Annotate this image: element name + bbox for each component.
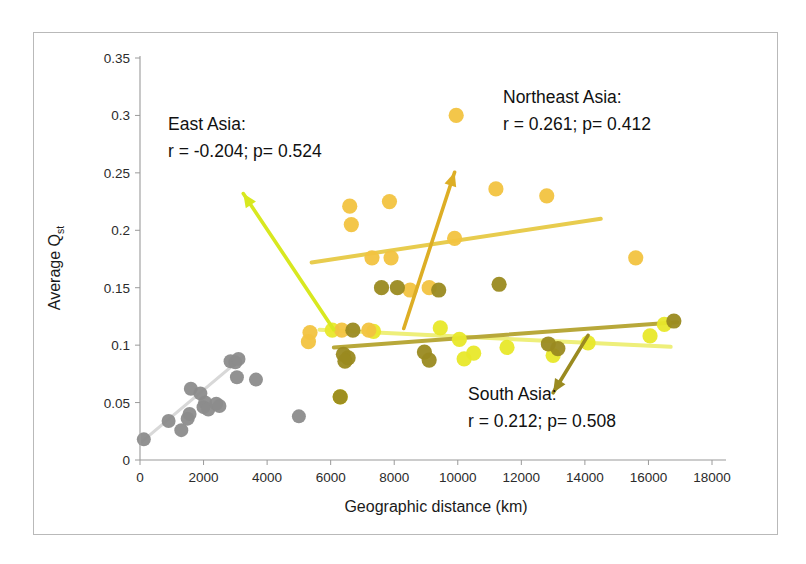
- data-point: [212, 399, 226, 413]
- x-tick-label: 14000: [566, 470, 604, 485]
- data-point: [137, 432, 151, 446]
- x-tick-label: 8000: [379, 470, 409, 485]
- x-tick-label: 0: [136, 470, 144, 485]
- y-axis-title-text: Average Q: [46, 234, 63, 310]
- y-tick-label: 0.05: [104, 396, 130, 411]
- annotation-northeast-asia: Northeast Asia:r = 0.261; p= 0.412: [503, 87, 651, 134]
- data-point: [452, 332, 467, 347]
- annotation-arrow: [404, 172, 456, 328]
- data-point: [230, 370, 244, 384]
- y-tick-label: 0: [122, 453, 130, 468]
- data-point: [249, 373, 263, 387]
- annotation-south-asia: South Asia:r = 0.212; p= 0.508: [468, 384, 616, 431]
- data-point: [344, 217, 359, 232]
- data-point: [292, 409, 306, 423]
- x-tick-label: 18000: [693, 470, 731, 485]
- data-point: [382, 194, 397, 209]
- data-point: [361, 323, 376, 338]
- data-point: [431, 282, 446, 297]
- data-point: [550, 341, 565, 356]
- annotation-east-asia: East Asia:r = -0.204; p= 0.524: [168, 114, 322, 161]
- y-tick-label: 0.35: [104, 51, 130, 66]
- x-tick-label: 2000: [189, 470, 219, 485]
- x-axis-title: Geographic distance (km): [344, 498, 527, 515]
- annotation-label: Northeast Asia:: [503, 87, 622, 107]
- x-tick-label: 4000: [252, 470, 282, 485]
- y-axis-title: Average Qst: [46, 226, 66, 310]
- data-point: [301, 334, 316, 349]
- data-point: [488, 181, 503, 196]
- data-point: [345, 323, 360, 338]
- trendline: [142, 357, 243, 442]
- annotation-arrow-layer: [243, 172, 588, 393]
- arrow-shaft: [404, 172, 455, 328]
- data-point: [183, 407, 197, 421]
- data-point: [433, 320, 448, 335]
- x-tick-label: 10000: [439, 470, 477, 485]
- data-point: [666, 313, 681, 328]
- data-point: [539, 188, 554, 203]
- figure-root: 00.050.10.150.20.250.30.3502000400060008…: [0, 0, 806, 564]
- annotation-stats: r = 0.212; p= 0.508: [468, 411, 616, 431]
- data-point: [364, 250, 379, 265]
- y-tick-label: 0.2: [111, 223, 130, 238]
- data-point: [499, 340, 514, 355]
- y-axis-title-subscript: st: [54, 226, 66, 234]
- data-point: [374, 280, 389, 295]
- data-point: [232, 352, 246, 366]
- data-point: [447, 231, 462, 246]
- y-axis-title-main: Average Qst: [46, 226, 66, 310]
- x-tick-label: 6000: [316, 470, 346, 485]
- data-point: [422, 352, 437, 367]
- x-tick-label: 12000: [503, 470, 541, 485]
- data-point: [466, 346, 481, 361]
- data-point: [491, 277, 506, 292]
- data-point: [383, 250, 398, 265]
- y-tick-label: 0.1: [111, 338, 130, 353]
- arrow-head: [445, 172, 457, 187]
- annotation-stats: r = -0.204; p= 0.524: [168, 141, 322, 161]
- y-tick-label: 0.25: [104, 166, 130, 181]
- data-point: [628, 250, 643, 265]
- annotation-stats: r = 0.261; p= 0.412: [503, 114, 651, 134]
- data-point: [449, 108, 464, 123]
- annotation-label: South Asia:: [468, 384, 557, 404]
- scatter-plot: 00.050.10.150.20.250.30.3502000400060008…: [0, 0, 806, 564]
- y-tick-label: 0.15: [104, 281, 130, 296]
- chart-surface: 00.050.10.150.20.250.30.3502000400060008…: [0, 0, 806, 564]
- y-tick-label: 0.3: [111, 108, 130, 123]
- data-point: [390, 280, 405, 295]
- data-point: [642, 328, 657, 343]
- annotation-label: East Asia:: [168, 114, 246, 134]
- data-point: [342, 199, 357, 214]
- data-point: [337, 354, 352, 369]
- data-point: [162, 414, 176, 428]
- x-tick-label: 16000: [630, 470, 668, 485]
- data-point: [333, 389, 348, 404]
